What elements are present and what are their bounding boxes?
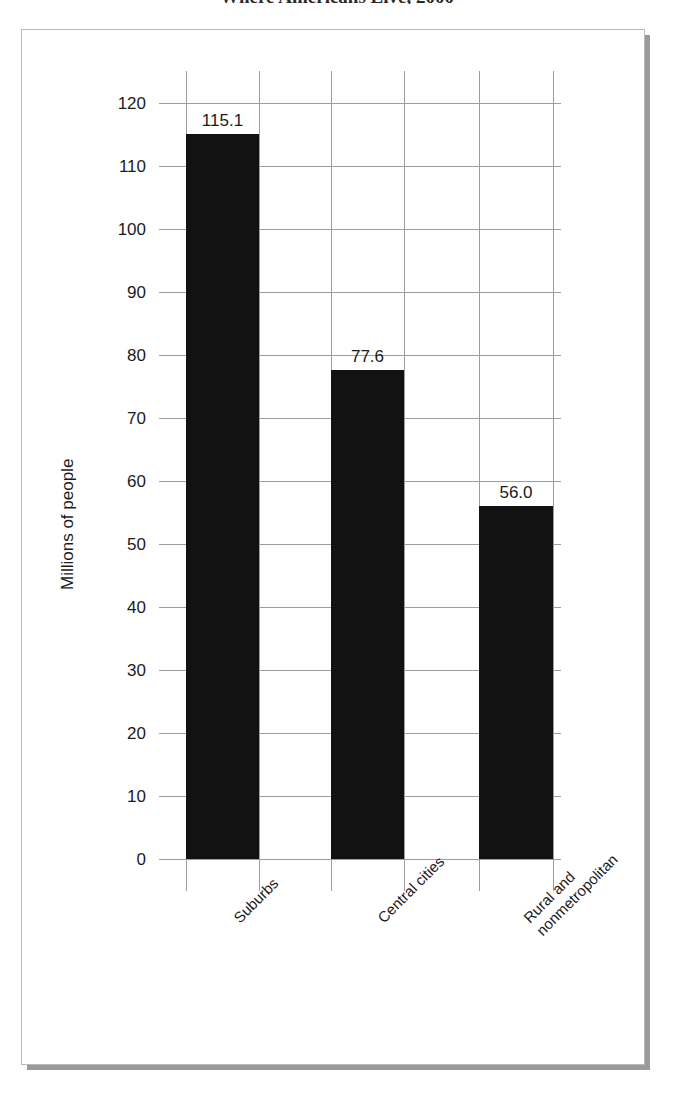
x-category-label: Central cities [374,853,448,927]
y-tick-label: 40 [84,599,146,616]
y-tick-label: 0 [84,851,146,868]
bar [331,370,404,859]
y-tick-label: 120 [84,95,146,112]
bar [186,134,259,859]
figure-frame: 1201101009080706050403020100 115.177.656… [21,29,645,1065]
y-axis-title: Millions of people [58,459,78,590]
bar-value-label: 115.1 [171,112,274,129]
y-tick-label: 90 [84,284,146,301]
bar-value-label: 56.0 [464,484,568,501]
x-category-label: Suburbs [230,874,282,926]
gridline-horizontal [159,103,561,104]
plot-area: 1201101009080706050403020100 115.177.656… [22,30,646,1066]
y-tick-label: 50 [84,536,146,553]
gridline-vertical [553,71,554,891]
y-tick-label: 60 [84,473,146,490]
y-tick-label: 30 [84,662,146,679]
figure-page: Where Americans Live, 2000 1201101009080… [0,0,674,1097]
bar [479,506,553,859]
y-tick-label: 110 [84,158,146,175]
bar-value-label: 77.6 [316,348,419,365]
chart-title-sliver: Where Americans Live, 2000 [0,0,674,4]
gridline-vertical [259,71,260,891]
y-tick-label: 100 [84,221,146,238]
y-tick-label: 70 [84,410,146,427]
gridline-vertical [404,71,405,891]
gridline-horizontal [159,859,561,860]
y-tick-label: 80 [84,347,146,364]
y-tick-label: 10 [84,788,146,805]
y-tick-label: 20 [84,725,146,742]
